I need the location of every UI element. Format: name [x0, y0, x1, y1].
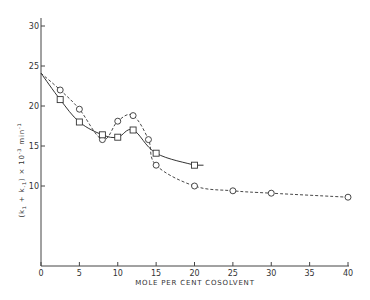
- square-marker: [57, 97, 63, 103]
- axes: 05101520253035401015202530: [29, 18, 353, 278]
- x-tick-label: 40: [343, 269, 353, 278]
- x-tick-label: 0: [38, 269, 43, 278]
- circle-marker: [115, 118, 121, 124]
- circles-line: [41, 73, 348, 197]
- x-tick-label: 35: [305, 269, 315, 278]
- x-tick-label: 10: [113, 269, 123, 278]
- circle-marker: [153, 162, 159, 168]
- circle-marker: [130, 113, 136, 119]
- x-tick-label: 25: [228, 269, 238, 278]
- series-squares: [41, 73, 204, 168]
- square-marker: [76, 119, 82, 125]
- y-tick-label: 25: [29, 62, 39, 71]
- square-marker: [115, 134, 121, 140]
- y-tick-label: 20: [29, 102, 39, 111]
- circle-marker: [192, 183, 198, 189]
- y-tick-label: 15: [29, 142, 39, 151]
- square-marker: [99, 132, 105, 138]
- y-tick-label: 30: [29, 22, 39, 31]
- circle-marker: [230, 188, 236, 194]
- circle-marker: [76, 106, 82, 112]
- x-tick-label: 20: [189, 269, 199, 278]
- x-tick-label: 30: [266, 269, 276, 278]
- x-tick-label: 15: [151, 269, 161, 278]
- chart: 05101520253035401015202530 MOLE PER CENT…: [0, 0, 370, 300]
- series-circles: [41, 73, 351, 200]
- square-marker: [192, 162, 198, 168]
- circle-marker: [345, 194, 351, 200]
- series-layer: [41, 73, 351, 200]
- square-marker: [153, 150, 159, 156]
- y-axis-label: (k1 + k-1) × 10-3 min-1: [16, 122, 27, 217]
- circle-marker: [145, 137, 151, 143]
- x-tick-label: 5: [77, 269, 82, 278]
- circle-marker: [57, 87, 63, 93]
- circle-marker: [268, 190, 274, 196]
- square-marker: [130, 127, 136, 133]
- y-tick-label: 10: [29, 182, 39, 191]
- x-axis-label: MOLE PER CENT COSOLVENT: [135, 279, 254, 287]
